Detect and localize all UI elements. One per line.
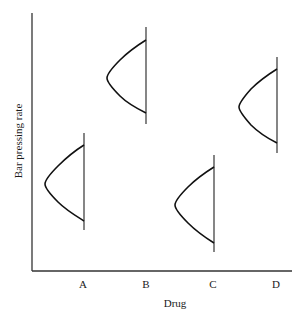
x-tick-label-b: B	[142, 278, 149, 290]
distribution-b	[107, 27, 146, 124]
distribution-b-curve	[107, 40, 146, 113]
x-tick-label-d: D	[272, 278, 280, 290]
x-tick-label-c: C	[209, 278, 216, 290]
x-tick-label-a: A	[79, 278, 87, 290]
distribution-c-curve	[175, 167, 214, 243]
chart: A B C D Drug Bar pressing rate	[0, 0, 305, 324]
distribution-d	[239, 57, 277, 153]
distribution-a	[45, 133, 84, 230]
y-axis-title: Bar pressing rate	[12, 104, 24, 179]
x-axis-title: Drug	[164, 297, 187, 309]
distribution-a-curve	[45, 145, 84, 221]
distribution-d-curve	[239, 69, 277, 143]
distribution-c	[175, 155, 214, 252]
